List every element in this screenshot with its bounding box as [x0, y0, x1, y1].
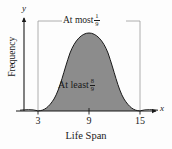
x-axis-letter: x [160, 104, 164, 113]
x-tick-label-15: 15 [130, 116, 150, 126]
at-least-denominator: 9 [90, 85, 95, 93]
at-most-denominator: 9 [94, 20, 99, 28]
x-tick-label-9: 9 [79, 116, 99, 126]
x-axis-title: Life Span [0, 131, 172, 142]
x-tick-label-3: 3 [28, 116, 48, 126]
life-span-distribution-figure: y x Frequency Life Span 3 9 15 At most19… [0, 0, 172, 149]
at-least-fraction: 89 [90, 78, 95, 93]
at-least-numerator: 8 [90, 78, 95, 85]
at-least-text: At least [58, 79, 89, 90]
at-most-text: At most [63, 15, 93, 25]
at-most-annotation: At most19 [63, 13, 100, 28]
at-least-annotation: At least89 [58, 78, 95, 93]
y-axis-title: Frequency [8, 26, 18, 88]
y-axis-letter: y [22, 4, 26, 13]
at-most-numerator: 1 [94, 13, 99, 20]
at-most-fraction: 19 [94, 13, 99, 28]
